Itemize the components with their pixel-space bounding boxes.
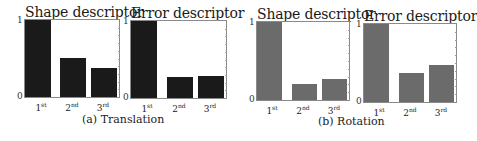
tick-mark bbox=[118, 51, 120, 52]
tick-mark bbox=[348, 69, 350, 70]
rotation-error-ytick-0: 0 bbox=[356, 97, 362, 106]
translation-shape-ytick-0: 0 bbox=[17, 92, 23, 101]
tick-mark bbox=[348, 38, 350, 39]
tick-mark bbox=[225, 67, 227, 68]
caption-rotation: (b) Rotation bbox=[318, 116, 385, 128]
translation-error-bar-2 bbox=[167, 77, 193, 98]
rotation-shape-plot-area bbox=[256, 21, 350, 101]
rotation-shape-bar-1 bbox=[257, 22, 282, 100]
tick-mark bbox=[455, 55, 457, 56]
tick-mark bbox=[225, 90, 227, 91]
translation-shape-plot-area bbox=[24, 19, 120, 98]
translation-error-xlabel-2: 2nd bbox=[164, 101, 194, 114]
tick-mark bbox=[225, 36, 227, 37]
translation-error-plot-area bbox=[130, 20, 227, 99]
rotation-error-xlabel-3: 3rd bbox=[426, 105, 456, 118]
translation-shape-xlabel-1: 1st bbox=[26, 100, 56, 113]
tick-mark bbox=[348, 53, 350, 54]
tick-mark bbox=[348, 92, 350, 93]
tick-mark bbox=[225, 29, 227, 30]
rotation-shape-bar-2 bbox=[292, 84, 317, 100]
rotation-shape-xlabel-2: 2nd bbox=[288, 103, 318, 116]
tick-mark bbox=[348, 84, 350, 85]
rotation-error-bar-1 bbox=[364, 24, 389, 102]
translation-shape-bar-1 bbox=[25, 20, 51, 97]
rotation-error-title: Error descriptor bbox=[364, 9, 477, 23]
tick-mark bbox=[348, 30, 350, 31]
tick-mark bbox=[225, 60, 227, 61]
translation-error-ytick-1: 1 bbox=[123, 17, 129, 26]
translation-error-bar-3 bbox=[198, 76, 224, 98]
tick-mark bbox=[118, 35, 120, 36]
caption-translation: (a) Translation bbox=[82, 114, 164, 126]
tick-mark bbox=[455, 40, 457, 41]
tick-mark bbox=[455, 86, 457, 87]
tick-mark bbox=[455, 63, 457, 64]
tick-mark bbox=[348, 77, 350, 78]
translation-error-title: Error descriptor bbox=[131, 6, 244, 20]
tick-mark bbox=[455, 94, 457, 95]
tick-mark bbox=[118, 59, 120, 60]
tick-mark bbox=[455, 47, 457, 48]
tick-mark bbox=[118, 28, 120, 29]
rotation-error-plot-area bbox=[363, 23, 457, 103]
rotation-shape-xlabel-1: 1st bbox=[257, 103, 287, 116]
translation-shape-ytick-1: 1 bbox=[17, 16, 23, 25]
translation-shape-xlabel-2: 2nd bbox=[57, 100, 87, 113]
translation-error-xlabel-3: 3rd bbox=[195, 101, 225, 114]
rotation-error-ytick-1: 1 bbox=[356, 20, 362, 29]
rotation-shape-bar-3 bbox=[322, 79, 347, 100]
tick-mark bbox=[225, 44, 227, 45]
tick-mark bbox=[455, 71, 457, 72]
translation-shape-bar-3 bbox=[91, 68, 117, 97]
tick-mark bbox=[225, 52, 227, 53]
tick-mark bbox=[348, 45, 350, 46]
rotation-error-bar-2 bbox=[399, 73, 424, 102]
rotation-shape-ytick-1: 1 bbox=[249, 18, 255, 27]
tick-mark bbox=[118, 89, 120, 90]
tick-mark bbox=[455, 32, 457, 33]
translation-shape-bar-2 bbox=[60, 58, 86, 97]
rotation-error-bar-3 bbox=[429, 65, 454, 102]
translation-shape-xlabel-3: 3rd bbox=[88, 100, 118, 113]
tick-mark bbox=[348, 61, 350, 62]
tick-mark bbox=[118, 66, 120, 67]
rotation-shape-ytick-0: 0 bbox=[249, 95, 255, 104]
tick-mark bbox=[118, 43, 120, 44]
tick-mark bbox=[118, 74, 120, 75]
tick-mark bbox=[118, 82, 120, 83]
tick-mark bbox=[225, 75, 227, 76]
translation-error-bar-1 bbox=[131, 21, 157, 98]
rotation-error-xlabel-2: 2nd bbox=[395, 105, 425, 118]
tick-mark bbox=[455, 79, 457, 80]
tick-mark bbox=[225, 83, 227, 84]
translation-error-ytick-0: 0 bbox=[123, 93, 129, 102]
